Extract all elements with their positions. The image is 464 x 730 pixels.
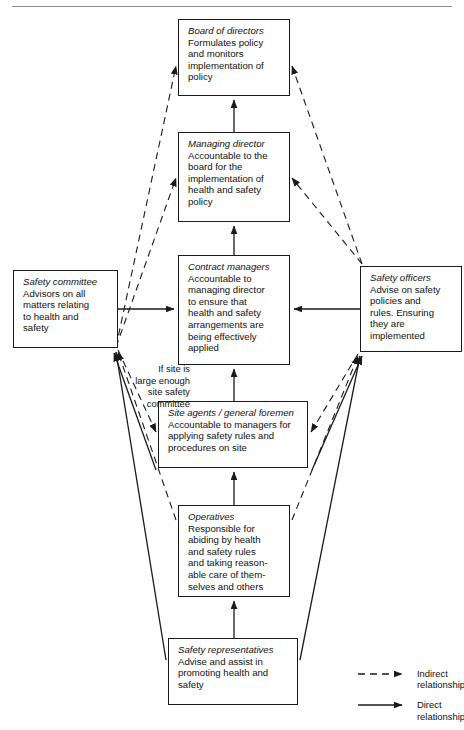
node-title-managing-director: Managing director	[188, 138, 282, 150]
node-desc-operatives: Responsible for abiding by health and sa…	[188, 523, 282, 593]
node-safety-committee: Safety committeeAdvisors on all matters …	[13, 270, 118, 348]
node-managing-director: Managing directorAccountable to the boar…	[178, 132, 290, 222]
edge-safety-committee-to-board	[116, 66, 176, 347]
node-contract-managers: Contract managersAccountable to managing…	[178, 255, 290, 365]
edge-safety-officers-to-board	[292, 66, 362, 264]
edge-safety-officers-to-managing-director	[292, 178, 362, 264]
node-title-safety-representatives: Safety representatives	[178, 644, 290, 656]
legend: Indirect relationship Direct relationshi…	[358, 668, 464, 730]
node-desc-contract-managers: Accountable to managing director to ensu…	[188, 273, 282, 354]
node-title-operatives: Operatives	[188, 511, 282, 523]
node-desc-safety-officers: Advise on safety policies and rules. Ens…	[370, 284, 454, 342]
node-desc-safety-representatives: Advise and assist in promoting health an…	[178, 656, 290, 691]
legend-dashed-line-icon	[358, 668, 410, 680]
legend-item-direct: Direct relationship	[358, 699, 464, 721]
legend-solid-line-icon	[358, 699, 410, 711]
safety-organisation-diagram: Board of directorsFormulates policy and …	[0, 0, 464, 730]
node-desc-board: Formulates policy and monitors implement…	[188, 37, 282, 83]
annotation-text: If site is large enough site safety comm…	[135, 363, 190, 408]
node-desc-managing-director: Accountable to the board for the impleme…	[188, 150, 282, 208]
legend-label-direct: Direct relationship	[417, 699, 464, 721]
node-title-board: Board of directors	[188, 25, 282, 37]
node-title-safety-committee: Safety committee	[23, 276, 110, 288]
edge-safety-committee-to-managing-director	[116, 178, 176, 347]
node-title-contract-managers: Contract managers	[188, 261, 282, 273]
site-safety-committee-annotation: If site is large enough site safety comm…	[96, 352, 190, 409]
legend-label-indirect: Indirect relationship	[417, 668, 464, 690]
node-site-agents: Site agents / general foremenAccountable…	[158, 401, 308, 468]
legend-item-indirect: Indirect relationship	[358, 668, 464, 690]
node-board: Board of directorsFormulates policy and …	[178, 19, 290, 96]
node-desc-safety-committee: Advisors on all matters relating to heal…	[23, 288, 110, 334]
node-safety-officers: Safety officersAdvise on safety policies…	[360, 266, 462, 352]
node-title-safety-officers: Safety officers	[370, 272, 454, 284]
edge-site-agents-to-safety-officers	[312, 356, 362, 470]
edge-safety-representatives-to-safety-officers	[300, 356, 360, 660]
node-safety-representatives: Safety representativesAdvise and assist …	[168, 638, 298, 705]
relationship-edges	[0, 0, 464, 730]
node-desc-site-agents: Accountable to managers for applying saf…	[168, 419, 300, 454]
node-operatives: OperativesResponsible for abiding by hea…	[178, 505, 290, 597]
